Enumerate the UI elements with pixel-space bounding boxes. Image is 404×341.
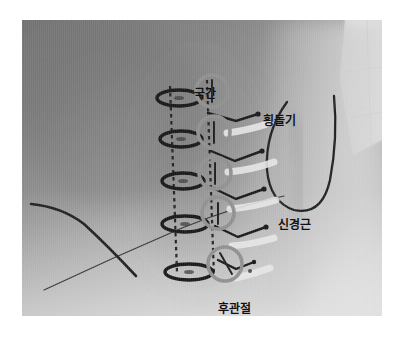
screenshot-root: 극간 횡돌기 신경근 후관절	[0, 0, 404, 341]
label-transverse-process: 횡돌기	[263, 115, 296, 127]
film-grain	[22, 20, 382, 316]
clinical-photograph: 극간 횡돌기 신경근 후관절	[22, 20, 382, 316]
photo-canvas	[22, 20, 382, 316]
label-interspinous: 극간	[194, 88, 216, 100]
label-facet-joint: 후관절	[218, 303, 251, 315]
label-nerve-root: 신경근	[278, 219, 311, 231]
